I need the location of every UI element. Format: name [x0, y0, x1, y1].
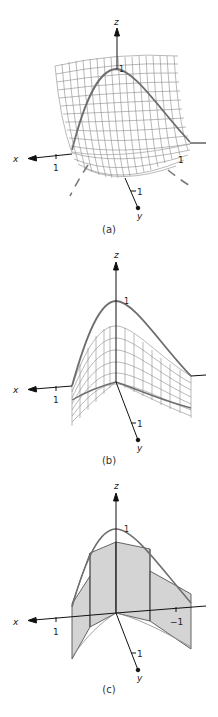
axes: [28, 28, 206, 210]
y-tick-label: 1: [137, 419, 143, 429]
x-tick-label: 1: [53, 627, 59, 637]
caption-c: (c): [0, 684, 218, 695]
x-arrow-icon: [28, 156, 37, 162]
y-axis: [116, 613, 138, 670]
x-arrow-icon: [28, 387, 37, 393]
panel-3: [116, 542, 150, 621]
approximation-plot-c: z 1 x 1 −1 1 y: [0, 477, 218, 717]
x-axis-label: x: [12, 617, 19, 627]
z-arrow-icon: [114, 262, 119, 270]
z-tick-label: 1: [124, 297, 129, 306]
x-arrow-icon: [28, 618, 37, 624]
z-axis-label: z: [113, 250, 119, 260]
x-axis: [34, 154, 72, 158]
neg-x-axis: [191, 375, 206, 376]
neg-x-tick-label: 1: [178, 155, 184, 165]
y-tick-label: 1: [137, 649, 143, 659]
z-axis-label: z: [113, 17, 119, 27]
axes: [28, 262, 206, 442]
mesh-surface: [72, 326, 191, 426]
y-arrow-icon: [136, 668, 140, 672]
caption-a: (a): [0, 224, 218, 235]
surface-plot-a: z 1 x 1 1 1 y: [0, 0, 218, 240]
panel-1: [72, 576, 90, 659]
x-axis-label: x: [12, 385, 19, 395]
y-arrow-icon: [136, 206, 140, 210]
y-arrow-icon: [136, 438, 140, 442]
z-arrow-icon: [115, 28, 120, 36]
x-axis: [34, 386, 72, 389]
panel-b: z 1 x 1 1 y (b): [0, 240, 218, 480]
z-tick-label: 1: [124, 525, 129, 534]
y-axis-label: y: [136, 211, 143, 221]
z-axis-label: z: [113, 481, 119, 491]
x-tick-label: 1: [53, 163, 59, 173]
surface-plot-b: z 1 x 1 1 y: [0, 240, 218, 480]
bell-curve: [72, 301, 191, 386]
x-tick-label: 1: [53, 395, 59, 405]
y-axis-label: y: [136, 673, 143, 683]
y-tick-label: 1: [137, 187, 143, 197]
z-tick-label: 1: [119, 65, 124, 74]
base-curve: [72, 382, 191, 408]
panel-a: z 1 x 1 1 1 y (a): [0, 0, 218, 240]
panel-c: z 1 x 1 −1 1 y (c): [0, 477, 218, 717]
neg-x-tick-label: −1: [170, 617, 183, 627]
caption-b: (b): [0, 455, 218, 466]
y-axis-label: y: [136, 443, 143, 453]
base-curve: [72, 144, 190, 155]
z-arrow-icon: [114, 493, 119, 501]
x-axis-label: x: [12, 154, 19, 164]
